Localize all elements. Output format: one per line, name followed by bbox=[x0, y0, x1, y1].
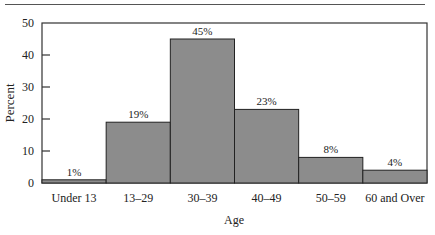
y-tick-label: 10 bbox=[22, 144, 34, 158]
histogram-chart: 1%Under 1319%13–2945%30–3923%40–498%50–5… bbox=[0, 0, 435, 235]
bar-value-label: 8% bbox=[323, 143, 338, 155]
bar-value-label: 4% bbox=[388, 156, 403, 168]
x-tick-label: Under 13 bbox=[52, 191, 97, 205]
y-tick-label: 20 bbox=[22, 112, 34, 126]
bar-value-label: 45% bbox=[192, 25, 212, 37]
y-tick-label: 50 bbox=[22, 16, 34, 30]
y-tick-label: 0 bbox=[28, 176, 34, 190]
x-tick-label: 40–49 bbox=[252, 191, 282, 205]
bars-group: 1%Under 1319%13–2945%30–3923%40–498%50–5… bbox=[42, 25, 427, 205]
y-tick-label: 40 bbox=[22, 48, 34, 62]
x-tick-label: 60 and Over bbox=[365, 191, 424, 205]
x-tick-label: 50–59 bbox=[316, 191, 346, 205]
bar bbox=[42, 180, 106, 183]
x-tick-label: 13–29 bbox=[123, 191, 153, 205]
y-axis-ticks: 01020304050 bbox=[22, 16, 50, 190]
bar bbox=[170, 39, 234, 183]
bar bbox=[106, 122, 170, 183]
y-axis-label: Percent bbox=[2, 83, 17, 122]
bar bbox=[299, 157, 363, 183]
bar-value-label: 1% bbox=[67, 166, 82, 178]
bar bbox=[235, 109, 299, 183]
x-axis-label: Age bbox=[224, 213, 244, 227]
bar-value-label: 23% bbox=[256, 95, 276, 107]
y-tick-label: 30 bbox=[22, 80, 34, 94]
x-tick-label: 30–39 bbox=[187, 191, 217, 205]
bar bbox=[363, 170, 427, 183]
bar-value-label: 19% bbox=[128, 108, 148, 120]
